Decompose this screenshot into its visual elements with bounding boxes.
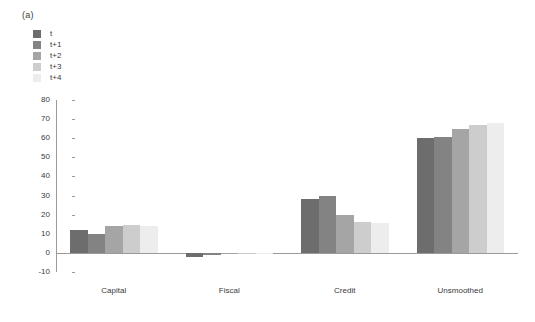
bar xyxy=(452,129,470,253)
legend-item: t+2 xyxy=(33,51,61,60)
bar xyxy=(88,234,106,253)
legend: tt+1t+2t+3t+4 xyxy=(33,29,61,82)
bar xyxy=(371,223,389,253)
y-axis-tick-labels: 80706050403020100-10 xyxy=(20,100,50,272)
figure-panel-a: (a) tt+1t+2t+3t+4 80706050403020100-10 C… xyxy=(0,0,535,322)
x-axis-category-label: Unsmoothed xyxy=(438,286,483,295)
bar-group xyxy=(172,100,288,272)
legend-item-label: t xyxy=(50,29,52,38)
legend-item-label: t+3 xyxy=(50,62,61,71)
y-axis-tick-label: 80 xyxy=(22,96,50,104)
bar xyxy=(434,137,452,253)
legend-item-label: t+2 xyxy=(50,51,61,60)
bar xyxy=(221,253,239,254)
y-axis-tick-label: 0 xyxy=(22,249,50,257)
legend-item-label: t+1 xyxy=(50,40,61,49)
bar-group xyxy=(56,100,172,272)
y-axis-tick-label: 40 xyxy=(22,172,50,180)
plot-area xyxy=(56,100,518,272)
panel-label: (a) xyxy=(22,10,34,20)
bar xyxy=(140,226,158,253)
y-axis-tick-label: 60 xyxy=(22,134,50,142)
x-axis-category-label: Fiscal xyxy=(219,286,240,295)
bar xyxy=(123,225,141,253)
legend-swatch-icon xyxy=(33,52,41,60)
legend-item: t xyxy=(33,29,61,38)
bar xyxy=(319,196,337,253)
y-axis-tick-label: 50 xyxy=(22,153,50,161)
y-axis-tick-label: 20 xyxy=(22,211,50,219)
bar xyxy=(203,253,221,255)
y-axis-tick-label: -10 xyxy=(22,268,50,276)
y-axis-tick-label: 70 xyxy=(22,115,50,123)
legend-swatch-icon xyxy=(33,74,41,82)
bar xyxy=(487,123,505,253)
bar xyxy=(469,125,487,253)
x-axis-category-label: Capital xyxy=(101,286,126,295)
bar xyxy=(336,215,354,253)
y-axis-tick-label: 10 xyxy=(22,230,50,238)
legend-item: t+4 xyxy=(33,73,61,82)
legend-item: t+1 xyxy=(33,40,61,49)
bar xyxy=(186,253,204,257)
y-axis-tick-label: 30 xyxy=(22,192,50,200)
bar-group xyxy=(287,100,403,272)
legend-item-label: t+4 xyxy=(50,73,61,82)
bar xyxy=(105,226,123,253)
bar-group xyxy=(403,100,519,272)
legend-swatch-icon xyxy=(33,41,41,49)
legend-item: t+3 xyxy=(33,62,61,71)
bar xyxy=(70,230,88,253)
bar xyxy=(354,222,372,253)
bar xyxy=(301,199,319,253)
bar xyxy=(417,138,435,253)
legend-swatch-icon xyxy=(33,63,41,71)
x-axis-category-label: Credit xyxy=(334,286,355,295)
y-axis-tick-mark xyxy=(72,272,75,273)
legend-swatch-icon xyxy=(33,30,41,38)
x-axis-category-labels: CapitalFiscalCreditUnsmoothed xyxy=(56,286,518,298)
